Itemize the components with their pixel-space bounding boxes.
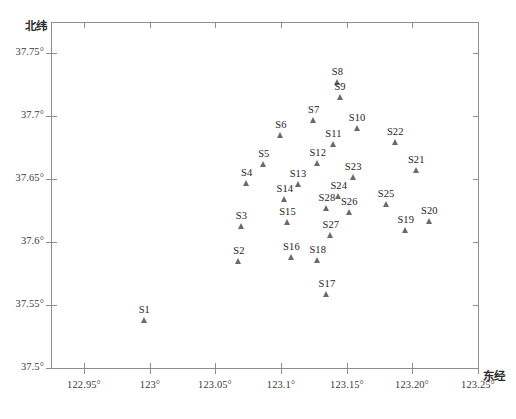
x-tick-mark: [281, 369, 282, 374]
y-tick-mark: [46, 116, 51, 117]
data-point-marker[interactable]: [327, 232, 333, 238]
data-point-label: S26: [341, 196, 358, 207]
x-tick-mark: [281, 363, 282, 368]
y-tick-mark: [52, 242, 57, 243]
y-tick-mark-right: [473, 179, 478, 180]
data-point-label: S11: [325, 128, 341, 139]
data-point-marker[interactable]: [277, 132, 283, 138]
data-point-label: S6: [275, 119, 286, 130]
data-point-marker[interactable]: [314, 160, 320, 166]
y-tick-label: 37.65°: [0, 172, 44, 183]
data-point-marker[interactable]: [330, 141, 336, 147]
x-tick-mark: [150, 369, 151, 374]
y-tick-mark: [46, 242, 51, 243]
data-point-marker[interactable]: [288, 254, 294, 260]
data-point-label: S3: [236, 210, 247, 221]
x-tick-mark-top: [478, 23, 479, 28]
data-point-marker[interactable]: [235, 258, 241, 264]
y-tick-mark: [52, 305, 57, 306]
data-point-label: S5: [258, 148, 269, 159]
data-point-label: S2: [233, 245, 244, 256]
data-point-label: S17: [319, 278, 336, 289]
y-tick-mark: [52, 53, 57, 54]
data-point-label: S19: [397, 214, 414, 225]
y-tick-mark: [46, 53, 51, 54]
x-tick-label: 123°: [115, 379, 185, 390]
x-tick-mark: [412, 363, 413, 368]
data-point-label: S28: [319, 192, 336, 203]
x-tick-mark: [215, 363, 216, 368]
data-point-marker[interactable]: [323, 205, 329, 211]
data-point-label: S13: [290, 168, 307, 179]
x-tick-mark: [84, 369, 85, 374]
data-point-label: S21: [408, 154, 425, 165]
data-point-marker[interactable]: [238, 223, 244, 229]
data-point-label: S27: [323, 219, 340, 230]
y-tick-mark-right: [473, 53, 478, 54]
data-point-label: S4: [241, 167, 252, 178]
x-tick-label: 123.05°: [180, 379, 250, 390]
y-tick-label: 37.5°: [0, 361, 44, 372]
data-point-label: S1: [139, 304, 150, 315]
y-tick-mark: [46, 368, 51, 369]
x-tick-mark: [478, 369, 479, 374]
data-point-marker[interactable]: [337, 94, 343, 100]
data-point-label: S25: [378, 188, 395, 199]
data-point-label: S9: [334, 81, 345, 92]
data-point-marker[interactable]: [402, 227, 408, 233]
x-tick-mark-top: [150, 23, 151, 28]
data-point-marker[interactable]: [426, 218, 432, 224]
data-point-marker[interactable]: [392, 139, 398, 145]
x-tick-mark: [478, 363, 479, 368]
x-tick-mark-top: [347, 23, 348, 28]
data-point-label: S22: [387, 126, 404, 137]
data-point-marker[interactable]: [383, 201, 389, 207]
x-tick-mark: [412, 369, 413, 374]
data-point-marker[interactable]: [310, 117, 316, 123]
y-tick-label: 37.75°: [0, 46, 44, 57]
x-tick-label: 123.1°: [246, 379, 316, 390]
x-tick-mark: [215, 369, 216, 374]
data-point-label: S24: [330, 180, 347, 191]
data-point-marker[interactable]: [323, 291, 329, 297]
y-tick-mark: [52, 116, 57, 117]
y-tick-mark-right: [473, 242, 478, 243]
data-point-label: S16: [283, 241, 300, 252]
data-point-label: S14: [277, 183, 294, 194]
x-tick-mark: [347, 369, 348, 374]
data-point-marker[interactable]: [354, 125, 360, 131]
data-point-label: S15: [279, 206, 296, 217]
y-axis-line: [51, 22, 52, 369]
data-point-marker[interactable]: [281, 196, 287, 202]
right-spine: [478, 22, 479, 369]
data-point-marker[interactable]: [295, 181, 301, 187]
y-tick-mark-right: [473, 116, 478, 117]
x-tick-mark: [84, 363, 85, 368]
x-tick-mark-top: [84, 23, 85, 28]
data-point-label: S20: [421, 205, 438, 216]
data-point-marker[interactable]: [350, 174, 356, 180]
data-point-marker[interactable]: [260, 161, 266, 167]
data-point-marker[interactable]: [413, 167, 419, 173]
data-point-marker[interactable]: [346, 209, 352, 215]
x-tick-label: 123.20°: [377, 379, 447, 390]
data-point-label: S18: [309, 244, 326, 255]
data-point-marker[interactable]: [284, 219, 290, 225]
x-tick-mark-top: [281, 23, 282, 28]
data-point-label: S7: [308, 104, 319, 115]
data-point-label: S12: [309, 147, 326, 158]
y-axis-title: 北纬: [25, 17, 47, 33]
data-point-label: S8: [332, 66, 343, 77]
x-tick-mark-top: [215, 23, 216, 28]
x-tick-label: 123.25°: [443, 379, 513, 390]
x-tick-mark: [150, 363, 151, 368]
y-tick-label: 37.55°: [0, 298, 44, 309]
data-point-label: S23: [345, 161, 362, 172]
data-point-marker[interactable]: [243, 180, 249, 186]
data-point-marker[interactable]: [314, 257, 320, 263]
scatter-plot-figure: 北纬 东经 37.75°37.7°37.65°37.6°37.55°37.5°1…: [0, 0, 516, 419]
data-point-marker[interactable]: [141, 317, 147, 323]
x-tick-mark-top: [412, 23, 413, 28]
y-tick-label: 37.6°: [0, 235, 44, 246]
y-tick-mark-right: [473, 305, 478, 306]
